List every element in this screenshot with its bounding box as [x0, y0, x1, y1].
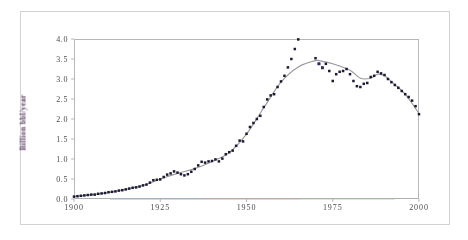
y-tick-label: 4.0	[38, 35, 68, 44]
y-axis-title: Billion bbl/year	[19, 76, 28, 170]
y-tick-label: 3.5	[38, 55, 68, 64]
scan-artifact-green	[300, 199, 395, 200]
x-tick-label: 1925	[150, 203, 170, 212]
x-tick-label: 1975	[323, 203, 343, 212]
figure-root: 4.03.53.02.52.01.51.00.50.0 190019251950…	[0, 0, 468, 240]
x-tick-label: 1900	[64, 203, 84, 212]
y-tick-label: 3.0	[38, 75, 68, 84]
y-tick-label: 2.5	[38, 95, 68, 104]
y-tick-label: 0.5	[38, 175, 68, 184]
x-tick-label: 2000	[409, 203, 429, 212]
plot-area	[74, 39, 419, 199]
y-tick-label: 1.5	[38, 135, 68, 144]
y-tick-label: 2.0	[38, 115, 68, 124]
y-tick-label: 1.0	[38, 155, 68, 164]
x-axis-tick-labels: 19001925195019752000	[0, 203, 468, 219]
scan-artifact-red	[205, 199, 300, 200]
x-tick-label: 1950	[237, 203, 257, 212]
scan-artifact-blue	[110, 199, 205, 200]
